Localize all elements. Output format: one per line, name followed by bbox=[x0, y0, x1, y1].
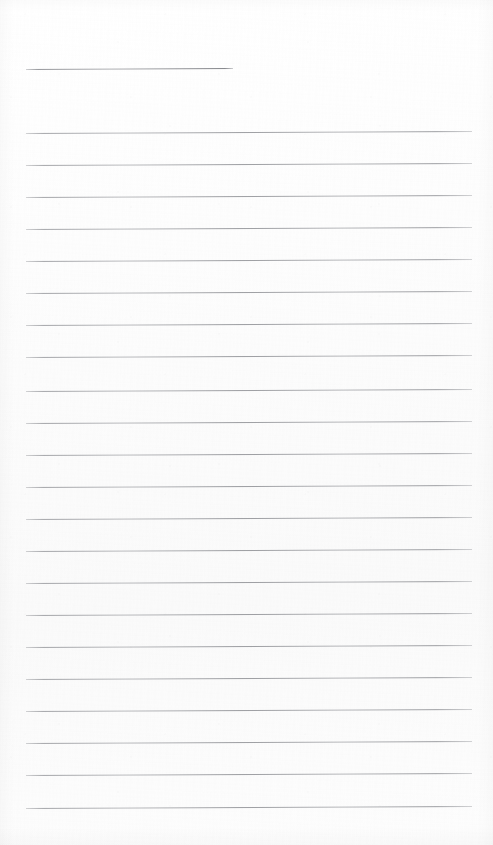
writing-rule bbox=[26, 355, 472, 358]
writing-rule bbox=[26, 741, 472, 744]
writing-rule bbox=[26, 227, 472, 230]
writing-rule bbox=[26, 517, 472, 520]
writing-rule bbox=[26, 323, 472, 326]
writing-rule bbox=[26, 613, 472, 616]
writing-rule bbox=[26, 549, 472, 552]
writing-rule bbox=[26, 485, 472, 488]
writing-rule bbox=[26, 131, 472, 134]
writing-rule bbox=[26, 163, 472, 166]
lined-paper-page bbox=[0, 0, 493, 845]
writing-rule bbox=[26, 453, 472, 456]
writing-rule bbox=[26, 291, 472, 294]
writing-rule bbox=[26, 421, 472, 424]
writing-rule bbox=[26, 773, 472, 776]
writing-rule bbox=[26, 259, 472, 262]
title-rule bbox=[26, 68, 233, 70]
writing-rule bbox=[26, 581, 472, 584]
writing-rule bbox=[26, 709, 472, 712]
writing-rule bbox=[26, 195, 472, 198]
writing-rule bbox=[26, 806, 472, 809]
writing-rule bbox=[26, 645, 472, 648]
writing-rule bbox=[26, 389, 472, 392]
writing-rule bbox=[26, 677, 472, 680]
